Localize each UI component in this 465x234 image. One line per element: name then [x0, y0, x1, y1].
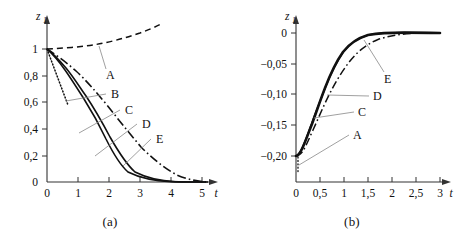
panel-a-ylabel-subscript: 1: [43, 16, 47, 25]
panel-b-x-ticks: [320, 177, 440, 182]
panel-b-curve-label-D: D: [373, 89, 382, 103]
panel-a-curve-label-A: A: [106, 68, 115, 82]
panel-a-plot: 1 0,8 0,6 0,4 0,2 0 0 1 2 3 4 5 z 1 t: [0, 0, 232, 200]
panel-b-curve-D: [296, 33, 440, 156]
panel-b-leader-lines: [299, 40, 384, 165]
panel-b-ylabel-subscript: 1: [292, 16, 296, 25]
panel-a-y-ticks: [42, 49, 47, 156]
panel-b-curve-C: [296, 33, 440, 156]
panel-a-curve-A: [47, 24, 161, 49]
panel-b-axes: [293, 15, 451, 185]
panel-a-ytick-2: 0,6: [24, 96, 39, 109]
panel-b-xtick-4: 2: [389, 187, 395, 199]
panel-b-xtick-0: 0: [293, 187, 299, 199]
panel-a-curve-label-E: E: [156, 132, 163, 146]
panel-a-ytick-0: 1: [32, 43, 38, 55]
panel-a-curve-label-D: D: [142, 117, 151, 131]
panel-a-ytick-3: 0,4: [24, 123, 39, 136]
panel-b-ytick-1: −0,05: [260, 58, 287, 71]
panel-b-xtick-2: 1: [341, 187, 347, 199]
panel-a-curve-label-C: C: [125, 103, 133, 117]
panel-b-caption: (b): [252, 214, 452, 230]
panel-b-ytick-2: −0,10: [260, 88, 287, 101]
panel-b-xtick-1: 0,5: [313, 187, 328, 200]
panel-a-xtick-4: 4: [168, 187, 174, 199]
panel-b-curve-E: [296, 33, 440, 156]
figure-container: 1 0,8 0,6 0,4 0,2 0 0 1 2 3 4 5 z 1 t: [0, 0, 465, 234]
panel-a-ytick-1: 0,8: [24, 70, 39, 83]
panel-a-xtick-0: 0: [44, 187, 50, 199]
panel-b-plot: 0 −0,05 −0,10 −0,15 −0,20 0 0,5 1 1,5 2 …: [232, 0, 464, 200]
panel-a-caption: (a): [10, 214, 210, 230]
panel-a-curve-B: [47, 49, 68, 105]
panel-a-ytick-5: 0: [32, 176, 38, 188]
panel-a-ytick-4: 0,2: [24, 150, 39, 163]
panel-b-ytick-3: −0,15: [260, 119, 287, 132]
panel-a-xtick-1: 1: [75, 187, 81, 199]
panel-b-ylabel: z: [284, 10, 290, 22]
panel-b-xtick-3: 1,5: [361, 187, 376, 200]
panel-b-curve-label-E: E: [384, 72, 391, 86]
panel-b-curve-label-C: C: [358, 105, 366, 119]
panel-b-xlabel: t: [449, 187, 453, 199]
panel-a-xlabel: t: [214, 187, 218, 199]
panel-a-ylabel: z: [35, 10, 41, 22]
panel-b-curve-label-A: A: [353, 128, 362, 142]
panel-a-xtick-5: 5: [199, 187, 205, 199]
panel-a-xtick-2: 2: [106, 187, 112, 199]
panel-b-xtick-5: 2,5: [409, 187, 424, 200]
panel-b-xtick-6: 3: [437, 187, 443, 199]
panel-b-y-ticks: [291, 33, 296, 156]
panel-a: 1 0,8 0,6 0,4 0,2 0 0 1 2 3 4 5 z 1 t: [0, 0, 232, 234]
panel-b-curves: [296, 33, 440, 173]
panel-a-xtick-3: 3: [137, 187, 143, 199]
panel-a-curve-label-B: B: [111, 87, 119, 101]
panel-b-ytick-0: 0: [281, 27, 287, 39]
panel-b-ytick-4: −0,20: [260, 150, 287, 163]
panel-b: 0 −0,05 −0,10 −0,15 −0,20 0 0,5 1 1,5 2 …: [232, 0, 464, 234]
